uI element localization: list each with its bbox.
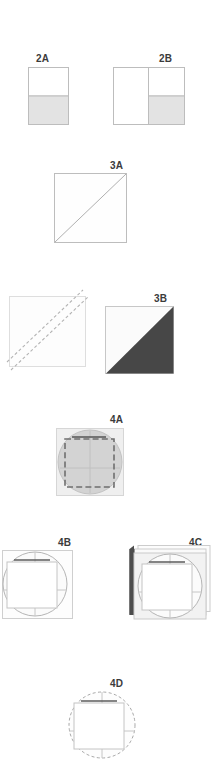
- figure-panel-4d: [67, 690, 137, 760]
- figure-panel-3b: [105, 306, 174, 374]
- figure-panel-2a: [28, 67, 69, 125]
- rect-2a-lower-filled: [29, 96, 69, 125]
- figure-panel-3b-left: [9, 296, 86, 367]
- figure-sheet: 2A 2B 3A 3B: [0, 0, 217, 766]
- figure-panel-4a: [56, 428, 124, 496]
- figure-panel-3a: [54, 173, 127, 243]
- rect-2b-left: [114, 68, 149, 125]
- rect-2b-right-upper: [149, 68, 185, 97]
- figure-panel-4b: [2, 550, 73, 619]
- rect-3b-left-square: [10, 297, 86, 367]
- figure-panel-4c: [129, 545, 217, 622]
- rect-4d-inner-square: [74, 703, 124, 749]
- figure-label-2b: 2B: [159, 53, 172, 64]
- figure-label-2a: 2A: [36, 53, 49, 64]
- figure-label-4d: 4D: [110, 678, 123, 689]
- rect-2a-upper: [29, 68, 69, 97]
- rect-4b-inner-square: [7, 562, 57, 608]
- figure-label-3a: 3A: [110, 160, 123, 171]
- figure-panel-2b: [113, 67, 185, 125]
- figure-label-4b: 4B: [58, 537, 71, 548]
- rect-4c-inner-square: [142, 564, 192, 610]
- figure-label-4a: 4A: [110, 414, 123, 425]
- rect-2b-right-lower-filled: [149, 96, 185, 125]
- figure-label-3b: 3B: [154, 293, 167, 304]
